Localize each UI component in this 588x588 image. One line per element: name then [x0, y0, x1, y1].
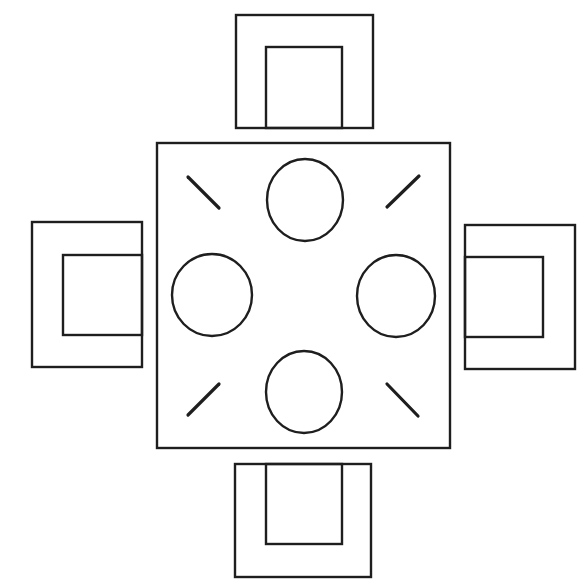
- chair-right-seat: [465, 257, 543, 337]
- chair-bottom-frame: [235, 464, 371, 577]
- plate-left-icon: [172, 254, 252, 336]
- corner-mark-bottom-right-icon: [387, 384, 418, 416]
- plate-top-icon: [267, 159, 343, 241]
- chair-top: [236, 15, 373, 128]
- chair-left: [32, 222, 142, 367]
- corner-mark-bottom-left-icon: [188, 384, 219, 415]
- corner-mark-top-right-icon: [387, 176, 419, 207]
- chair-top-seat: [266, 47, 342, 128]
- chair-top-frame: [236, 15, 373, 128]
- corner-mark-top-left-icon: [188, 177, 219, 208]
- chair-left-frame: [32, 222, 142, 367]
- chair-right: [465, 225, 575, 369]
- chair-right-frame: [465, 225, 575, 369]
- plate-bottom-icon: [266, 351, 342, 433]
- dining-set-floor-plan: [0, 0, 588, 588]
- chair-left-seat: [63, 255, 142, 335]
- plate-right-icon: [357, 255, 435, 337]
- chair-bottom-seat: [266, 464, 342, 544]
- chair-bottom: [235, 464, 371, 577]
